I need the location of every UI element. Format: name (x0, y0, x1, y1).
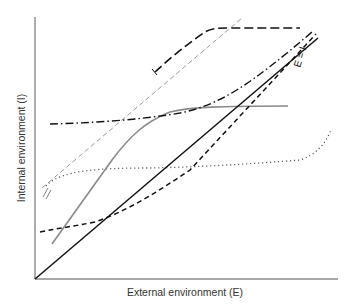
identity-label: E = I (291, 45, 308, 68)
curve-thin-gray-dashed (42, 18, 242, 188)
dotted-limit-marker (43, 188, 51, 199)
curve-gray-solid (52, 106, 288, 244)
y-axis-label: Internal environment (I) (15, 94, 27, 203)
curve-long-dashed (155, 28, 300, 72)
x-axis-label: External environment (E) (127, 286, 243, 298)
environment-diagram: E = I External environment (E) Internal … (0, 0, 358, 308)
curve-dotted (46, 130, 331, 186)
